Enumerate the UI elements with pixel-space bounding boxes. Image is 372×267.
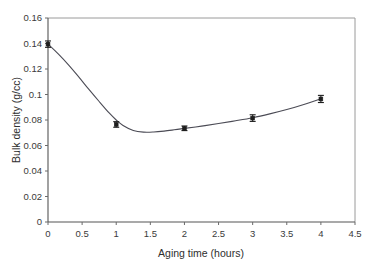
data-point-marker	[251, 116, 255, 120]
bulk-density-chart-figure: 00.020.040.060.080.10.120.140.16 00.511.…	[0, 0, 372, 267]
data-point-marker	[46, 42, 50, 46]
y-tick-label: 0.04	[24, 165, 43, 176]
x-tick-label: 4.5	[348, 228, 361, 239]
y-tick-label: 0.06	[24, 140, 43, 151]
x-tick-label: 1.5	[144, 228, 157, 239]
chart-canvas: 00.020.040.060.080.10.120.140.16 00.511.…	[0, 0, 372, 267]
x-tick-label: 4	[318, 228, 323, 239]
x-tick-label: 2.5	[212, 228, 225, 239]
x-tick-label: 3.5	[280, 228, 293, 239]
x-axis-title: Aging time (hours)	[158, 247, 244, 259]
x-tick-label: 1	[114, 228, 119, 239]
y-tick-label: 0	[37, 216, 42, 227]
y-tick-label: 0.1	[29, 89, 42, 100]
data-point-marker	[114, 123, 118, 127]
y-tick-label: 0.16	[24, 12, 43, 23]
data-point-marker	[319, 97, 323, 101]
y-tick-label: 0.02	[24, 191, 43, 202]
y-axis-tick-labels: 00.020.040.060.080.10.120.140.16	[24, 12, 43, 227]
x-tick-label: 3	[250, 228, 255, 239]
y-tick-label: 0.14	[24, 38, 43, 49]
y-tick-label: 0.08	[24, 114, 43, 125]
x-tick-label: 0	[45, 228, 50, 239]
x-tick-label: 2	[182, 228, 187, 239]
data-point-marker	[183, 126, 187, 130]
y-tick-label: 0.12	[24, 63, 43, 74]
x-tick-label: 0.5	[76, 228, 89, 239]
y-axis-title: Bulk density (g/cc)	[10, 77, 22, 163]
chart-background	[0, 0, 372, 267]
